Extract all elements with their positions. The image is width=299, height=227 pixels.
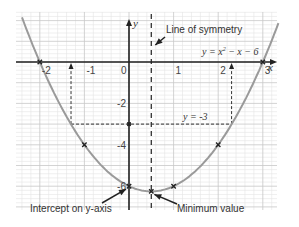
x-tick-label: -1 bbox=[86, 65, 95, 76]
equation-prefix: y = x bbox=[201, 46, 223, 57]
y-axis-label: y bbox=[132, 17, 138, 29]
horizontal-line-label: y = -3 bbox=[182, 111, 208, 122]
symmetry-line-label: Line of symmetry bbox=[166, 24, 242, 35]
y-tick-label: -2 bbox=[117, 98, 126, 109]
x-tick-label: -2 bbox=[42, 65, 51, 76]
y-axis-arrow-icon bbox=[126, 19, 132, 26]
parabola-chart: -2-10123-2-4-6 x y Line of symmetry y = … bbox=[0, 0, 299, 227]
grid-minor bbox=[16, 12, 277, 210]
grid-major bbox=[16, 12, 277, 210]
x-tick-label: 2 bbox=[220, 65, 226, 76]
x-tick-label: 1 bbox=[176, 65, 182, 76]
y-tick-label: -4 bbox=[117, 140, 126, 151]
equation-label: y = x2 − x − 6 bbox=[201, 46, 259, 57]
equation-suffix: − x − 6 bbox=[226, 46, 259, 57]
minimum-annotation: Minimum value bbox=[177, 203, 245, 214]
x-axis-label: x bbox=[267, 61, 273, 73]
x-tick-label: 0 bbox=[121, 65, 127, 76]
y-intercept-annotation: Intercept on y-axis bbox=[30, 203, 112, 214]
tick-labels: -2-10123-2-4-6 bbox=[42, 65, 271, 192]
